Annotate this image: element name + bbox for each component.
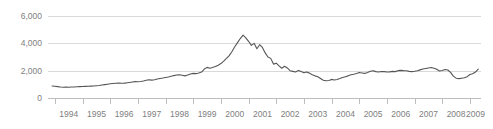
x-axis-tick-label: 2001 [253,109,272,119]
x-axis-tick-label: 2003 [308,109,327,119]
y-axis-tick-label: 2,000 [21,66,43,76]
x-axis-tick-label: 1998 [170,109,189,119]
x-axis-tick-label: 2009 [466,109,485,119]
y-axis-tick-label: 0 [37,93,42,103]
x-axis-tick-labels: 1994199519961997199819992000200120022003… [59,109,485,119]
y-axis-tick-label: 4,000 [21,38,43,48]
x-axis-tick-label: 2000 [225,109,244,119]
x-axis-tick-label: 2002 [281,109,300,119]
x-axis-tickmarks [56,99,471,104]
data-series [52,35,478,87]
x-axis-tick-label: 2005 [364,109,383,119]
chart-canvas: 02,0004,0006,000 19941995199619971998199… [0,0,493,129]
x-axis-tick-label: 1995 [87,109,106,119]
x-axis-tick-label: 2008 [447,109,466,119]
line-chart: 02,0004,0006,000 19941995199619971998199… [0,0,493,129]
x-axis-tick-label: 1994 [59,109,78,119]
x-axis-tick-label: 1999 [198,109,217,119]
gridlines [48,17,481,99]
y-axis-tick-labels: 02,0004,0006,000 [21,11,43,103]
x-axis-tick-label: 2007 [419,109,438,119]
x-axis-tick-label: 1996 [115,109,134,119]
x-axis-tick-label: 2004 [336,109,355,119]
series-line [52,35,478,87]
y-axis-tick-label: 6,000 [21,11,43,21]
x-axis-tick-label: 2006 [391,109,410,119]
x-axis-tick-label: 1997 [142,109,161,119]
